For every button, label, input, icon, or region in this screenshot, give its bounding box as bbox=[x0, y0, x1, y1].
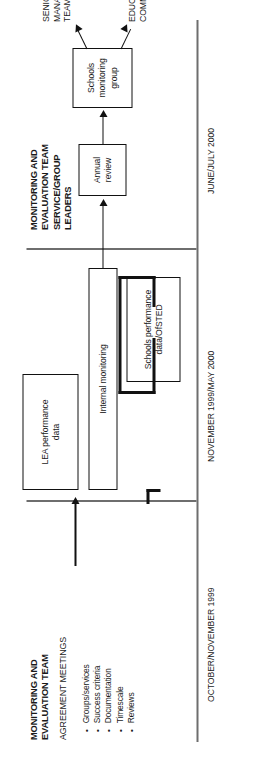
arrow-annual-review-to-schools-monitoring-group-head bbox=[99, 110, 107, 117]
bracket-right-lower-horizontal bbox=[152, 276, 155, 307]
bracket-right-upper-horizontal bbox=[118, 276, 121, 338]
output-senior-management-team: SENIOR MANAGEMENT TEAM bbox=[40, 0, 72, 22]
bracket-internal-monitoring-tick-horizontal bbox=[146, 489, 149, 504]
list-item-label: Timescale bbox=[114, 686, 125, 723]
phase-3-header: MONITORING AND EVALUATION TEAM SERVICE/G… bbox=[28, 20, 74, 230]
arrow-annual-review-to-schools-monitoring-group-shaft bbox=[102, 114, 103, 144]
bullet-icon: • bbox=[102, 729, 113, 732]
list-item-label: Groups/services bbox=[80, 664, 91, 723]
output-education-committee: EDUCATION COMMITTEE bbox=[126, 0, 147, 22]
arrow-internal-monitoring-to-annual-review-head bbox=[99, 199, 107, 206]
bullet-icon: • bbox=[80, 729, 91, 732]
timeline-baseline bbox=[196, 20, 198, 742]
bracket-upper-horizontal bbox=[118, 338, 121, 394]
list-item: • Reviews bbox=[125, 664, 136, 732]
diagram-canvas: OCTOBER/NOVEMBER 1999 NOVEMBER 1999/MAY … bbox=[0, 0, 257, 762]
box-internal-monitoring: Internal monitoring bbox=[88, 268, 117, 490]
bullet-icon: • bbox=[125, 729, 136, 732]
arrow-internal-monitoring-to-annual-review-shaft bbox=[102, 204, 103, 268]
arrow-to-senior-management-team-shaft bbox=[76, 29, 87, 49]
arrow-phase1-to-internal-monitoring-shaft bbox=[74, 502, 75, 566]
list-item: • Groups/services bbox=[80, 664, 91, 732]
period-label-2: NOVEMBER 1999/MAY 2000 bbox=[205, 351, 215, 462]
list-item-label: Documentation bbox=[102, 668, 113, 723]
diagram-viewport: OCTOBER/NOVEMBER 1999 NOVEMBER 1999/MAY … bbox=[0, 0, 257, 762]
bullet-icon: • bbox=[114, 729, 125, 732]
timeline-divider-1 bbox=[26, 500, 196, 502]
list-item-label: Success criteria bbox=[91, 666, 102, 724]
box-lea-performance-data: LEA performance data bbox=[22, 374, 78, 490]
arrow-to-education-committee-shaft bbox=[120, 29, 131, 49]
bullet-icon: • bbox=[91, 729, 102, 732]
bracket-lower-horizontal bbox=[152, 338, 155, 394]
phase-1-bullet-list: • Groups/services • Success criteria • D… bbox=[80, 664, 136, 732]
list-item: • Timescale bbox=[114, 664, 125, 732]
box-schools-monitoring-group: Schools monitoring group bbox=[72, 48, 132, 108]
arrow-phase1-to-internal-monitoring-head bbox=[71, 497, 79, 504]
list-item: • Documentation bbox=[102, 664, 113, 732]
box-annual-review: Annual review bbox=[78, 144, 126, 196]
bracket-left-vertical bbox=[118, 391, 155, 394]
phase-1-subheader: AGREEMENT MEETINGS bbox=[57, 637, 68, 740]
list-item-label: Reviews bbox=[125, 692, 136, 723]
phase-1-header: MONITORING AND EVALUATION TEAM bbox=[28, 560, 51, 740]
period-label-3: JUNE/JULY 2000 bbox=[205, 128, 215, 194]
list-item: • Success criteria bbox=[91, 664, 102, 732]
timeline-divider-2 bbox=[26, 248, 196, 250]
bracket-right-vertical bbox=[118, 276, 155, 279]
period-label-1: OCTOBER/NOVEMBER 1999 bbox=[205, 588, 215, 702]
